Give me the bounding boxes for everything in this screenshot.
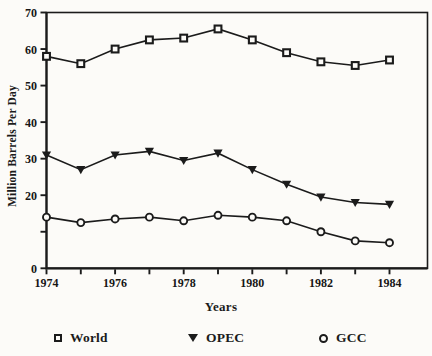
gcc-marker [146,214,153,221]
world-marker [386,57,393,64]
open-square-icon [54,334,62,342]
legend-item-opec: OPEC [188,330,244,346]
gcc-marker [386,239,393,246]
world-marker [249,37,256,44]
y-tick-label: 30 [25,152,37,166]
world-line [47,29,390,66]
x-tick-label: 1978 [172,276,196,290]
gcc-marker [180,217,187,224]
opec-marker [248,166,257,174]
legend-item-world: World [54,330,108,346]
gcc-marker [215,212,222,219]
gcc-marker [43,214,50,221]
gcc-marker [77,219,84,226]
opec-marker [76,166,85,174]
world-marker [318,58,325,65]
world-marker [352,62,359,69]
y-tick-label: 20 [25,189,37,203]
opec-marker [179,157,188,165]
legend-label-world: World [70,330,108,346]
opec-line [47,151,390,204]
x-tick-label: 1984 [378,276,402,290]
world-marker [215,26,222,33]
gcc-marker [112,215,119,222]
y-axis-title: Million Barrels Per Day [6,66,22,226]
gcc-marker [352,237,359,244]
x-tick-label: 1980 [240,276,264,290]
triangle-down-icon [188,334,198,342]
y-tick-label: 60 [25,43,37,57]
plot-border [47,13,428,269]
chart-figure: 0203040506070197419761978198019821984 Mi… [0,0,432,356]
y-tick-label: 70 [25,6,37,20]
axis-lines [47,13,428,269]
x-axis-title: Years [160,299,282,315]
world-marker [77,60,84,67]
legend-label-gcc: GCC [336,330,367,346]
gcc-marker [283,217,290,224]
world-marker [43,53,50,60]
x-tick-label: 1974 [35,276,59,290]
y-tick-label: 0 [31,262,37,276]
open-circle-icon [319,334,328,343]
x-tick-label: 1976 [103,276,127,290]
legend-label-opec: OPEC [206,330,244,346]
world-marker [146,37,153,44]
world-marker [283,49,290,56]
y-tick-label: 50 [25,79,37,93]
y-tick-label: 40 [25,116,37,130]
legend-item-gcc: GCC [319,330,367,346]
legend: World OPEC GCC [0,330,432,350]
gcc-marker [249,214,256,221]
gcc-marker [317,228,324,235]
x-tick-label: 1982 [309,276,333,290]
world-marker [180,35,187,42]
world-marker [112,46,119,53]
opec-marker [111,151,120,159]
